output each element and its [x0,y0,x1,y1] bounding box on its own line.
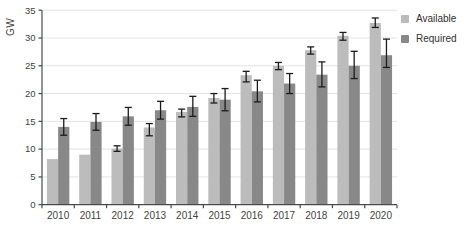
y-tick-label-15: 15 [25,116,36,127]
y-tick-label-35: 35 [25,5,36,16]
bar-available-2016 [241,75,252,204]
bar-required-2017 [284,84,295,205]
bar-required-2015 [220,100,231,205]
x-tick-label-2016: 2016 [241,210,264,221]
bar-available-2014 [176,112,187,205]
bar-chart-canvas: GW 0510152025303520102011201220132014201… [0,0,471,228]
y-tick-label-30: 30 [25,32,36,43]
x-tick-label-2015: 2015 [208,210,231,221]
bar-available-2011 [79,155,90,205]
bar-required-2019 [349,66,360,205]
bar-available-2012 [111,149,122,205]
x-tick-label-2011: 2011 [80,210,102,221]
y-tick-label-20: 20 [25,88,36,99]
x-tick-label-2012: 2012 [112,210,135,221]
y-tick-label-0: 0 [30,199,35,210]
legend-swatch-available-icon [401,15,409,23]
legend-item-required: Required [401,33,457,44]
bar-required-2012 [123,116,134,204]
y-tick-label-25: 25 [25,60,36,71]
x-tick-label-2019: 2019 [337,210,360,221]
legend-item-available: Available [401,13,457,24]
y-tick-label-5: 5 [30,171,35,182]
bar-required-2014 [187,107,198,205]
x-tick-label-2014: 2014 [176,210,199,221]
legend-label-available: Available [416,13,456,24]
x-tick-label-2017: 2017 [273,210,296,221]
bar-available-2013 [144,127,155,204]
bar-required-2011 [90,122,101,205]
bar-available-2020 [370,23,381,205]
bar-available-2018 [305,50,316,204]
bar-required-2018 [316,75,327,205]
legend-swatch-required-icon [401,35,409,43]
legend: Available Required [401,13,457,44]
bar-required-2016 [252,91,263,204]
bar-required-2020 [381,55,392,204]
legend-label-required: Required [416,33,457,44]
bar-available-2010 [47,159,58,205]
bar-required-2013 [155,110,166,204]
bar-available-2019 [337,36,348,205]
x-tick-label-2013: 2013 [144,210,167,221]
x-tick-label-2018: 2018 [305,210,328,221]
x-tick-label-2020: 2020 [370,210,393,221]
bar-available-2015 [208,98,219,205]
bar-available-2017 [273,66,284,205]
bar-required-2010 [58,127,69,205]
x-tick-label-2010: 2010 [47,210,70,221]
y-tick-label-10: 10 [25,143,36,154]
